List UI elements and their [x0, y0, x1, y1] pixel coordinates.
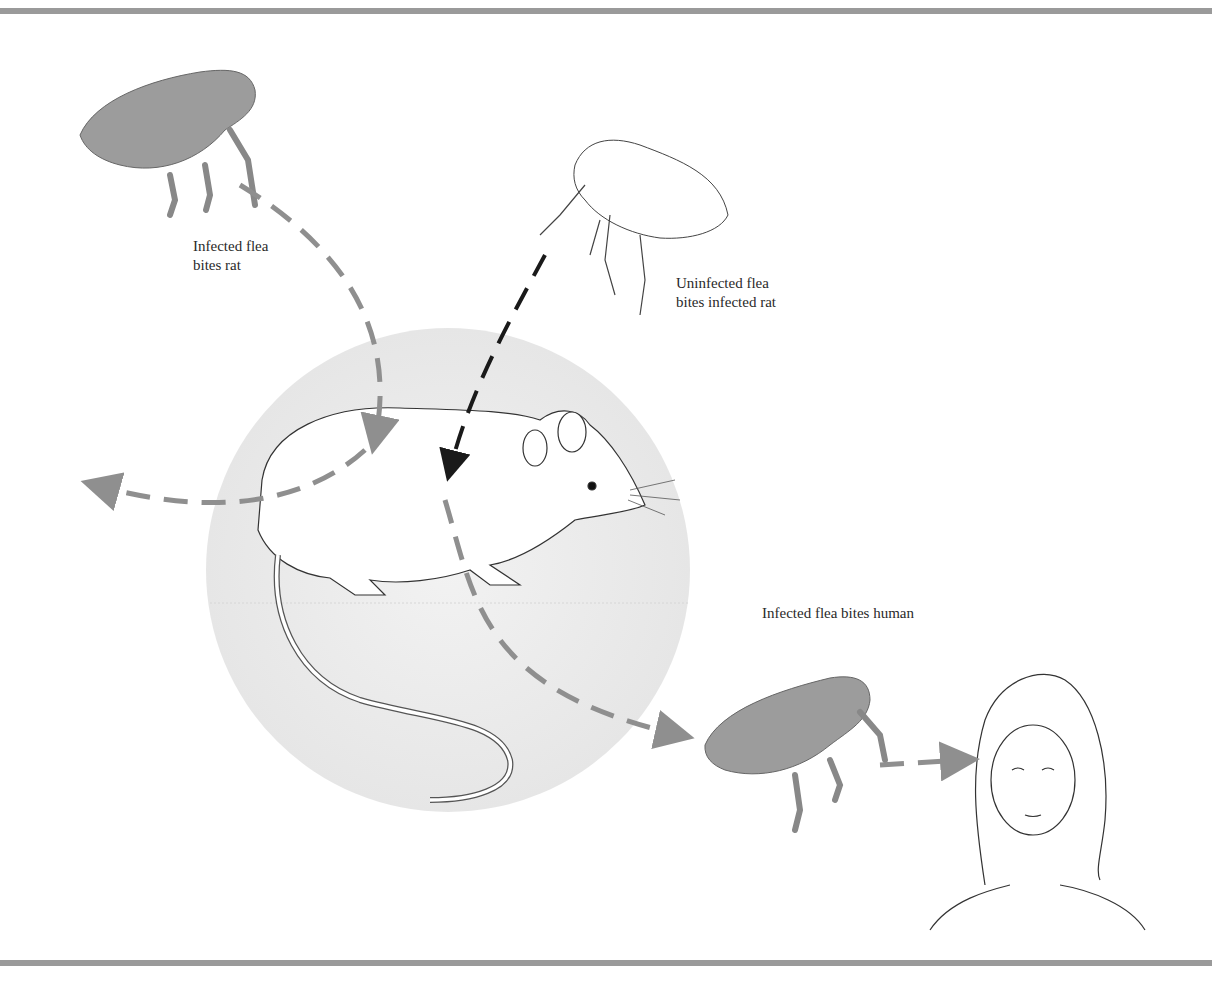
label-infected-flea-bites-human: Infected flea bites human	[762, 604, 914, 623]
human-illustration	[930, 674, 1145, 930]
label-line: Uninfected flea	[676, 274, 776, 293]
label-uninfected-flea: Uninfected flea bites infected rat	[676, 274, 776, 312]
diagram-canvas	[0, 0, 1231, 981]
infected-flea-top-left	[80, 70, 255, 215]
label-line: bites rat	[193, 256, 268, 275]
label-line: Infected flea	[193, 237, 268, 256]
infected-flea-bottom-right	[705, 677, 885, 830]
arrow-flea-to-human	[880, 760, 965, 765]
label-infected-flea-bites-rat: Infected flea bites rat	[193, 237, 268, 275]
label-line: bites infected rat	[676, 293, 776, 312]
